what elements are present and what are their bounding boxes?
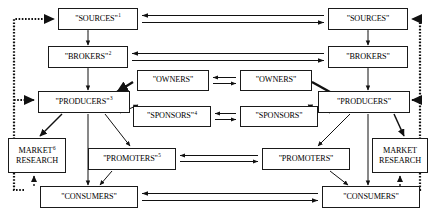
footnote-marker: 2: [108, 50, 111, 56]
node-label: "OWNERS": [153, 76, 193, 84]
node-promoters-right[interactable]: "PROMOTERS": [262, 148, 350, 170]
node-label: "PROMOTERS"5: [103, 155, 161, 163]
node-label: "SOURCES": [347, 15, 390, 23]
node-sponsors-right[interactable]: "SPONSORS": [240, 106, 318, 127]
node-label: MARKETRESEARCH: [379, 146, 421, 164]
footnote-marker: 3: [109, 95, 112, 101]
node-label: "PRODUCERS"3: [56, 98, 113, 106]
node-label: "PROMOTERS": [279, 155, 334, 163]
node-label: "SPONSORS": [255, 112, 302, 120]
node-owners-left[interactable]: "OWNERS": [137, 70, 209, 91]
node-owners-right[interactable]: "OWNERS": [240, 70, 312, 91]
node-consumers-left[interactable]: "CONSUMERS": [40, 186, 138, 208]
node-market-research-left[interactable]: MARKET6RESEARCH: [8, 138, 66, 173]
node-consumers-right[interactable]: "CONSUMERS": [322, 186, 420, 208]
node-label: "SPONSORS"4: [147, 112, 197, 120]
node-label: "OWNERS": [256, 76, 296, 84]
diagram-canvas: "SOURCES"1"SOURCES""BROKERS"2"BROKERS""O…: [0, 0, 434, 216]
node-label: MARKET6RESEARCH: [16, 146, 58, 164]
footnote-marker: 4: [194, 110, 197, 116]
node-sponsors-left[interactable]: "SPONSORS"4: [133, 106, 211, 127]
node-label: "CONSUMERS": [343, 193, 399, 201]
node-label: "BROKERS"2: [65, 53, 112, 61]
node-brokers-right[interactable]: "BROKERS": [328, 46, 408, 68]
node-producers-right[interactable]: "PRODUCERS": [318, 91, 410, 113]
node-market-research-right[interactable]: MARKETRESEARCH: [372, 138, 428, 173]
node-label: "PRODUCERS": [337, 98, 391, 106]
node-sources-left[interactable]: "SOURCES"1: [58, 8, 138, 30]
footnote-marker: 6: [52, 145, 55, 151]
node-brokers-left[interactable]: "BROKERS"2: [48, 46, 128, 68]
node-producers-left[interactable]: "PRODUCERS"3: [38, 91, 130, 113]
footnote-marker: 5: [158, 152, 161, 158]
node-sources-right[interactable]: "SOURCES": [328, 8, 408, 30]
node-label: "CONSUMERS": [61, 193, 117, 201]
node-label: "SOURCES"1: [75, 15, 121, 23]
footnote-marker: 1: [118, 12, 121, 18]
node-label: "BROKERS": [346, 53, 390, 61]
node-promoters-left[interactable]: "PROMOTERS"5: [88, 148, 176, 170]
